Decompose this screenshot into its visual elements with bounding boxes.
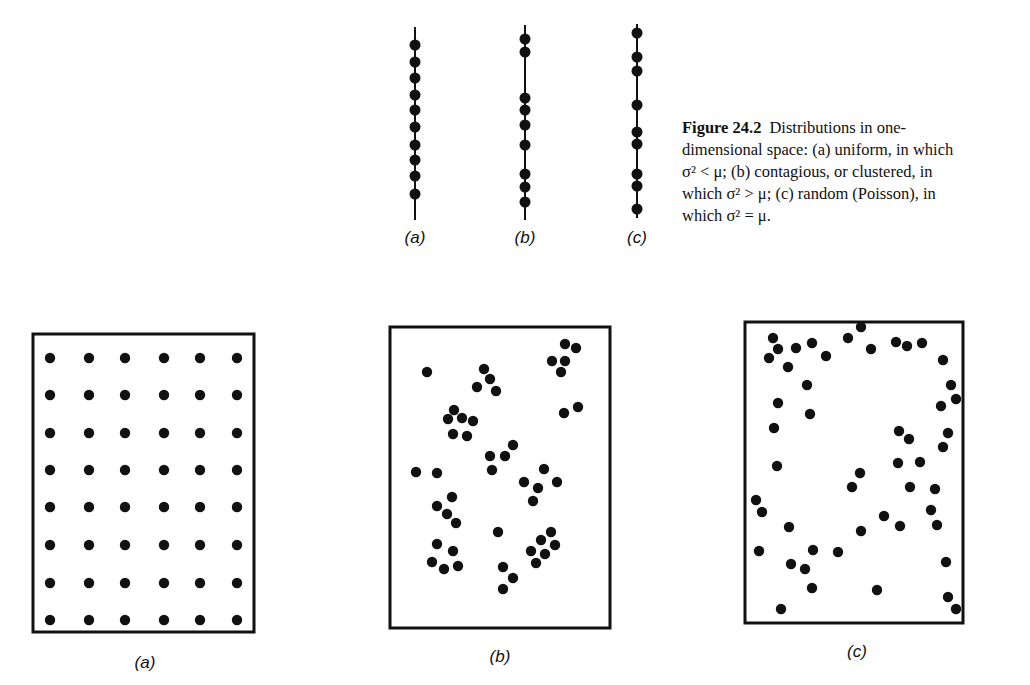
point-dot — [159, 578, 169, 588]
box-panel-b: (b) — [390, 327, 610, 666]
figure-24-2: (a)(b)(c) (a)(b)(c) — [0, 0, 1030, 685]
point-dot — [159, 465, 169, 475]
point-dot — [472, 382, 482, 392]
point-dot — [84, 578, 94, 588]
point-dot — [751, 495, 761, 505]
point-dot — [769, 423, 779, 433]
point-dot — [232, 428, 242, 438]
point-dot — [232, 615, 242, 625]
point-dot — [632, 28, 643, 39]
point-dot — [556, 367, 566, 377]
point-dot — [843, 333, 853, 343]
point-dot — [571, 343, 581, 353]
point-dot — [560, 356, 570, 366]
point-dot — [772, 461, 782, 471]
point-dot — [410, 155, 421, 166]
point-dot — [786, 559, 796, 569]
point-dot — [540, 549, 550, 559]
point-dot — [520, 197, 531, 208]
point-dot — [520, 34, 531, 45]
point-dot — [783, 362, 793, 372]
point-dot — [508, 573, 518, 583]
panel-label: (a) — [405, 228, 426, 247]
point-dot — [800, 564, 810, 574]
point-dot — [938, 355, 948, 365]
point-dot — [120, 615, 130, 625]
point-dot — [120, 465, 130, 475]
point-dot — [776, 604, 786, 614]
point-dot — [943, 592, 953, 602]
panel-label: (c) — [627, 228, 647, 247]
caption-line-1: Figure 24.2Distributions in one- — [682, 117, 1030, 139]
point-dot — [84, 615, 94, 625]
point-dot — [520, 93, 531, 104]
point-dot — [547, 356, 557, 366]
point-dot — [195, 540, 205, 550]
point-dot — [120, 578, 130, 588]
point-dot — [856, 322, 866, 332]
point-dot — [784, 522, 794, 532]
point-dot — [560, 339, 570, 349]
figure-number: Figure 24.2 — [682, 118, 761, 137]
point-dot — [195, 615, 205, 625]
point-dot — [498, 584, 508, 594]
point-dot — [159, 502, 169, 512]
point-dot — [773, 344, 783, 354]
one-dimensional-distributions: (a)(b)(c) — [405, 24, 647, 247]
point-dot — [462, 431, 472, 441]
point-dot — [632, 181, 643, 192]
point-dot — [936, 401, 946, 411]
caption-line-4: which σ² > μ; (c) random (Poisson), in — [682, 183, 1030, 205]
point-dot — [902, 341, 912, 351]
point-dot — [559, 408, 569, 418]
point-dot — [422, 367, 432, 377]
point-dot — [84, 390, 94, 400]
point-dot — [632, 66, 643, 77]
point-dot — [120, 353, 130, 363]
point-dot — [951, 394, 961, 404]
point-dot — [500, 451, 510, 461]
box-panel-a: (a) — [33, 334, 254, 672]
point-dot — [946, 380, 956, 390]
point-dot — [45, 578, 55, 588]
point-dot — [159, 390, 169, 400]
point-dot — [485, 374, 495, 384]
point-dot — [764, 353, 774, 363]
point-dot — [449, 405, 459, 415]
point-dot — [508, 440, 518, 450]
point-dot — [448, 546, 458, 556]
point-dot — [479, 364, 489, 374]
point-dot — [520, 182, 531, 193]
point-dot — [442, 509, 452, 519]
point-dot — [926, 505, 936, 515]
point-dot — [932, 520, 942, 530]
point-dot — [531, 558, 541, 568]
line-panel-a: (a) — [405, 27, 426, 247]
point-dot — [45, 540, 55, 550]
point-dot — [453, 561, 463, 571]
panel-label: (c) — [847, 642, 867, 661]
point-dot — [195, 390, 205, 400]
point-dot — [904, 434, 914, 444]
point-dot — [808, 545, 818, 555]
point-dot — [410, 122, 421, 133]
point-dot — [45, 353, 55, 363]
line-panel-c: (c) — [627, 24, 647, 247]
point-dot — [536, 535, 546, 545]
point-dot — [84, 540, 94, 550]
point-dot — [232, 465, 242, 475]
point-dot — [447, 492, 457, 502]
point-dot — [894, 426, 904, 436]
point-dot — [443, 414, 453, 424]
point-dot — [632, 100, 643, 111]
point-dot — [893, 458, 903, 468]
point-dot — [432, 501, 442, 511]
point-dot — [943, 428, 953, 438]
point-dot — [941, 557, 951, 567]
point-dot — [468, 416, 478, 426]
caption-line-3: σ² < μ; (b) contagious, or clustered, in — [682, 161, 1030, 183]
point-dot — [432, 468, 442, 478]
point-dot — [520, 105, 531, 116]
caption-line-5: which σ² = μ. — [682, 205, 1030, 227]
point-dot — [410, 105, 421, 116]
